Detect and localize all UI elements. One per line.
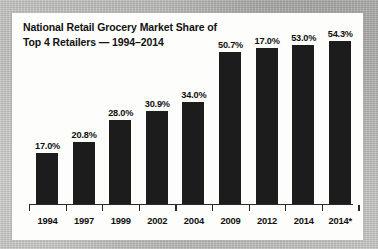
bar-group: 28.0% xyxy=(102,29,139,204)
bar-group: 30.9% xyxy=(139,29,176,204)
bar-group: 50.7% xyxy=(212,29,249,204)
x-axis-label: 2009 xyxy=(212,215,249,226)
bar-chart-plot-area: 17.0%20.8%28.0%30.9%34.0%50.7%17.0%53.0%… xyxy=(12,13,363,240)
x-axis-label: 2004 xyxy=(175,215,212,226)
x-axis-label: 2014* xyxy=(322,215,359,226)
axis-tick xyxy=(212,205,213,211)
bar-group: 54.3% xyxy=(322,29,359,204)
bar-group: 34.0% xyxy=(175,29,212,204)
x-axis-label: 1999 xyxy=(102,215,139,226)
axis-tick xyxy=(102,205,103,211)
bar xyxy=(292,45,314,204)
x-axis-label: 1997 xyxy=(66,215,103,226)
axis-tick xyxy=(285,205,286,211)
x-axis-label: 2012 xyxy=(249,215,286,226)
x-axis-label: 2014 xyxy=(285,215,322,226)
x-axis-label: 2002 xyxy=(139,215,176,226)
bar xyxy=(219,52,241,204)
bar-value-label: 34.0% xyxy=(171,90,216,100)
bar xyxy=(109,120,131,204)
bar-value-label: 54.3% xyxy=(318,29,363,39)
x-axis-label: 1994 xyxy=(29,215,66,226)
axis-tick xyxy=(139,205,140,211)
chart-card: National Retail Grocery Market Share of … xyxy=(12,13,363,240)
bar-group: 53.0% xyxy=(285,29,322,204)
bar xyxy=(329,41,351,204)
bar xyxy=(182,102,204,204)
bar-group: 17.0% xyxy=(249,29,286,204)
axis-tick xyxy=(175,205,176,211)
bar-value-label: 17.0% xyxy=(25,141,70,151)
bar-value-label: 28.0% xyxy=(98,108,143,118)
bar-group: 17.0% xyxy=(29,29,66,204)
bar-value-label: 30.9% xyxy=(135,99,180,109)
axis-tick xyxy=(66,205,67,211)
bar xyxy=(36,153,58,204)
axis-tick xyxy=(322,205,323,211)
bar-group: 20.8% xyxy=(66,29,103,204)
bar xyxy=(146,111,168,204)
bar xyxy=(73,142,95,204)
bar xyxy=(256,48,278,204)
x-axis-line xyxy=(29,204,353,205)
axis-tick xyxy=(29,205,30,211)
axis-tick xyxy=(249,205,250,211)
axis-tick xyxy=(358,205,359,211)
bar-value-label: 20.8% xyxy=(62,130,107,140)
